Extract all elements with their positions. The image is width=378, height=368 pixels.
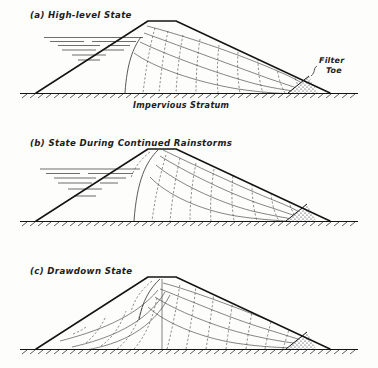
impervious-hatching-b xyxy=(22,222,355,226)
panel-b: (b) State During Continued Rainstorms xyxy=(20,138,358,226)
panel-a-caption: (a) High-level State xyxy=(30,10,132,20)
filter-toe-label-line1: Filter xyxy=(319,56,345,65)
impervious-hatching-a xyxy=(22,94,355,98)
dam-seepage-figure: (a) High-level State xyxy=(0,0,378,368)
embankment-outline-c xyxy=(36,277,330,349)
flow-lines-a xyxy=(134,26,312,94)
flow-lines-b xyxy=(150,150,310,222)
impervious-hatching-c xyxy=(22,350,355,354)
embankment-outline-a xyxy=(36,21,330,93)
filter-toe-label-line2: Toe xyxy=(326,66,342,75)
impervious-stratum-label: Impervious Stratum xyxy=(133,100,229,110)
equipotential-lines-b xyxy=(152,155,299,221)
equipotential-lines-a xyxy=(143,28,303,93)
panel-b-caption: (b) State During Continued Rainstorms xyxy=(30,138,232,148)
panel-a: (a) High-level State xyxy=(20,10,358,110)
phreatic-surface-b xyxy=(134,150,158,221)
panel-c-caption: (c) Drawdown State xyxy=(30,266,133,276)
filter-toe-leader xyxy=(311,66,317,76)
panel-c: (c) Drawdown State xyxy=(20,266,358,354)
figure-sheet: (a) High-level State xyxy=(0,0,378,368)
reservoir-water-lines-b xyxy=(40,169,140,196)
flow-lines-c xyxy=(60,283,310,350)
equipotential-lines-c xyxy=(73,283,308,349)
